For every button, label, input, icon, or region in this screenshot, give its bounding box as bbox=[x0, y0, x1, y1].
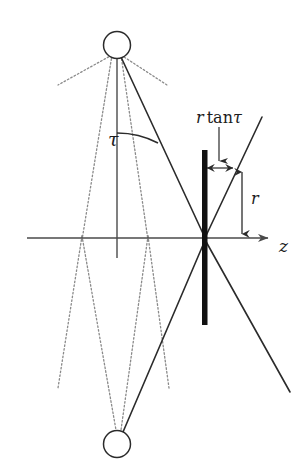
dotted-ray-c bbox=[58, 236, 82, 388]
solid-ray-top-to-focus bbox=[121, 57, 206, 240]
offset-var-r: r bbox=[196, 108, 204, 127]
offset-r-tan-tau-label: rtanτ bbox=[196, 110, 242, 126]
dotted-ray-h bbox=[121, 236, 148, 430]
source-circle-top bbox=[104, 32, 131, 59]
solid-ray-focus-lower-right bbox=[204, 238, 290, 392]
source-circle-bottom bbox=[104, 431, 131, 458]
aperture-bar bbox=[202, 150, 208, 325]
offset-var-tau: τ bbox=[233, 108, 242, 127]
solid-ray-bottom-to-focus bbox=[123, 238, 206, 432]
diagram-canvas bbox=[0, 0, 307, 468]
dotted-ray-e bbox=[121, 55, 148, 240]
angle-tau-arc bbox=[117, 133, 158, 143]
ray-diagram-figure: z τ r rtanτ bbox=[0, 0, 307, 468]
dotted-ray-a bbox=[58, 55, 112, 85]
dotted-ray-group bbox=[58, 55, 169, 430]
dotted-ray-g bbox=[82, 236, 116, 430]
radius-r-label: r bbox=[251, 191, 259, 207]
angle-tau-label: τ bbox=[108, 130, 119, 149]
solid-ray-focus-upper-right bbox=[204, 117, 262, 240]
z-axis-label: z bbox=[279, 238, 288, 255]
offset-func-tan: tan bbox=[207, 108, 233, 127]
